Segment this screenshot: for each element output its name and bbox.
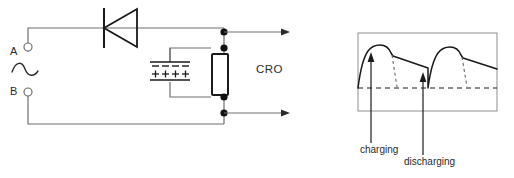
terminal-a-label: A bbox=[10, 46, 17, 57]
arrow-right-icon-bottom bbox=[281, 110, 290, 117]
terminal-a-connector[interactable] bbox=[24, 43, 32, 51]
terminal-b-connector[interactable] bbox=[24, 88, 32, 96]
sine-wave-icon bbox=[12, 63, 38, 75]
figure-root: A B CRO charging discharging bbox=[0, 0, 514, 178]
charging-label: charging bbox=[360, 145, 398, 155]
node-dot-capacitor-top bbox=[220, 44, 227, 51]
terminal-b-label: B bbox=[10, 86, 17, 97]
resistor-icon bbox=[212, 54, 228, 95]
capacitor-icon bbox=[150, 62, 190, 80]
cro-label: CRO bbox=[256, 64, 283, 76]
rectifier-circuit-diagram bbox=[0, 0, 330, 178]
output-lead-bottom bbox=[224, 110, 290, 117]
arrow-right-icon-top bbox=[281, 29, 290, 36]
discharging-label: discharging bbox=[404, 157, 455, 167]
output-lead-top bbox=[224, 29, 290, 36]
node-dot-capacitor-bottom bbox=[220, 93, 227, 100]
